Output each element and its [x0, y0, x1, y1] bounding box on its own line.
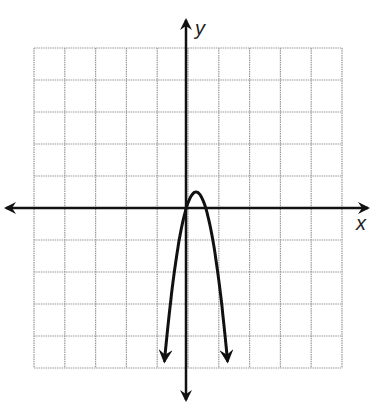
- x-axis-label: x: [355, 212, 367, 234]
- y-axis-label: y: [193, 17, 206, 39]
- coordinate-plane: x y: [0, 0, 375, 411]
